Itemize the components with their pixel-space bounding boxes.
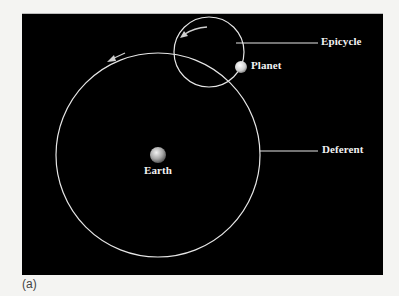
epicycle-circle bbox=[174, 17, 244, 87]
deferent-motion-arrow-icon bbox=[107, 53, 125, 62]
figure-caption: (a) bbox=[22, 277, 37, 291]
earth-label: Earth bbox=[144, 164, 172, 176]
epicycle-motion-arrow-icon bbox=[180, 27, 207, 38]
earth-sphere bbox=[150, 147, 166, 163]
planet-label: Planet bbox=[251, 59, 282, 71]
epicycle-label: Epicycle bbox=[321, 35, 362, 47]
deferent-label: Deferent bbox=[322, 143, 364, 155]
planet-sphere bbox=[235, 61, 247, 73]
